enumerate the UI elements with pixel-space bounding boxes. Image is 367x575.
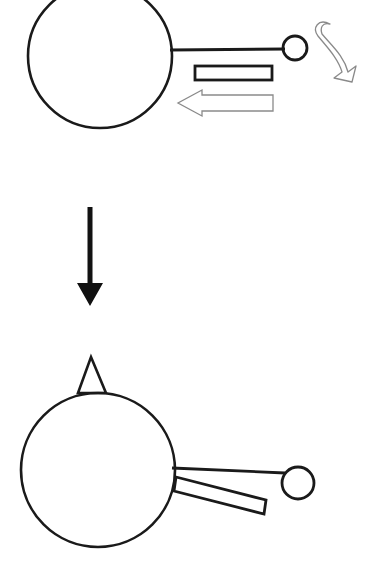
line-drawing-canvas — [0, 0, 367, 575]
figure-root: Rotation of a disc with attached rod and… — [0, 0, 367, 575]
top-connecting-rod — [170, 49, 285, 50]
